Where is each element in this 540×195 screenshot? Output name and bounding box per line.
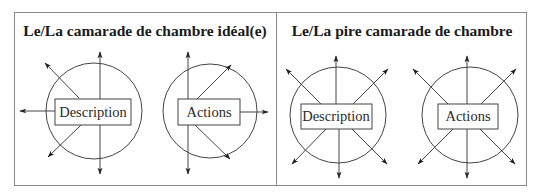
arrow-lower-left — [292, 129, 326, 164]
arrow-lower-right — [195, 125, 230, 159]
label-actions: Actions — [445, 108, 490, 124]
arrow-lower-left — [418, 129, 453, 164]
arrow-upper-left — [413, 69, 448, 104]
arrow-lower-left — [48, 125, 81, 157]
arrow-upper-left — [286, 69, 321, 104]
arrow-lower-right — [480, 129, 515, 164]
label-actions: Actions — [186, 104, 231, 120]
label-description: Description — [302, 108, 370, 124]
arrow-upper-right — [197, 65, 231, 99]
idea-web-diagrams: Description Actions Description Actions — [0, 0, 540, 195]
arrow-upper-right — [481, 69, 516, 104]
label-description: Description — [59, 104, 127, 120]
